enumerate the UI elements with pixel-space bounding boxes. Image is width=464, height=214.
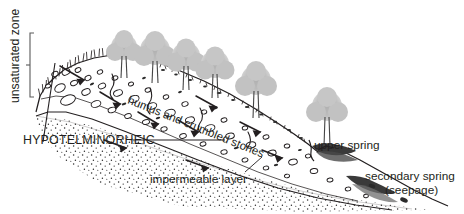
- diagram-root: unsaturated zone HYPOTELMINORHEIC humus …: [0, 0, 464, 214]
- label-secondary-spring-seepage: (seepage): [385, 183, 438, 197]
- label-hypotelminorheic: HYPOTELMINORHEIC: [23, 133, 155, 147]
- label-unsaturated-zone: unsaturated zone: [8, 9, 22, 103]
- label-impermeable-layer: impermeable layer: [150, 172, 247, 186]
- label-secondary-spring: secondary spring: [365, 169, 455, 183]
- cross-section-illustration: unsaturated zone HYPOTELMINORHEIC humus …: [0, 0, 464, 214]
- label-upper-spring: upper spring: [314, 138, 380, 152]
